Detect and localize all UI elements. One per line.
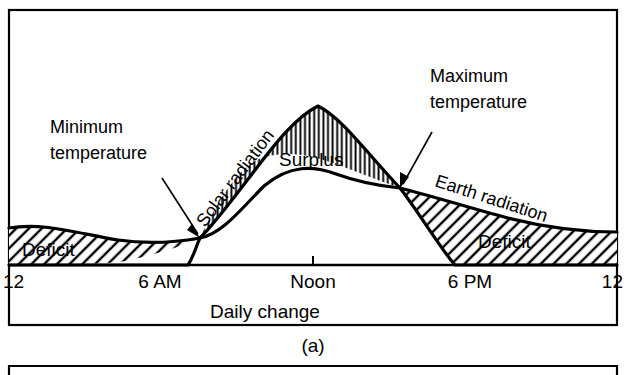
figure-a-container: Minimum temperature Maximum temperature … bbox=[0, 0, 626, 375]
maximum-temperature-label-line2: temperature bbox=[430, 92, 527, 112]
panel-b-frame-top bbox=[9, 366, 617, 375]
maximum-temperature-label-line1: Maximum bbox=[430, 66, 508, 86]
maximum-temperature-leader bbox=[400, 132, 432, 188]
axis-tick-label-midnight-end: 12 bbox=[602, 271, 623, 292]
deficit-left-label: Deficit bbox=[22, 239, 76, 260]
deficit-right-label: Deficit bbox=[478, 231, 532, 252]
minimum-temperature-label-line2: temperature bbox=[50, 143, 147, 163]
axis-tick-label-midnight-start: 12 bbox=[3, 271, 24, 292]
x-axis-title: Daily change bbox=[210, 301, 320, 322]
daily-radiation-diagram: Minimum temperature Maximum temperature … bbox=[0, 0, 626, 375]
minimum-temperature-leader bbox=[162, 178, 200, 238]
axis-tick-label-6am: 6 AM bbox=[138, 271, 181, 292]
axis-tick-label-noon: Noon bbox=[290, 271, 335, 292]
axis-tick-label-6pm: 6 PM bbox=[448, 271, 492, 292]
minimum-temperature-label-line1: Minimum bbox=[50, 117, 123, 137]
figure-caption: (a) bbox=[301, 335, 324, 356]
surplus-label: Surplus bbox=[279, 149, 343, 170]
